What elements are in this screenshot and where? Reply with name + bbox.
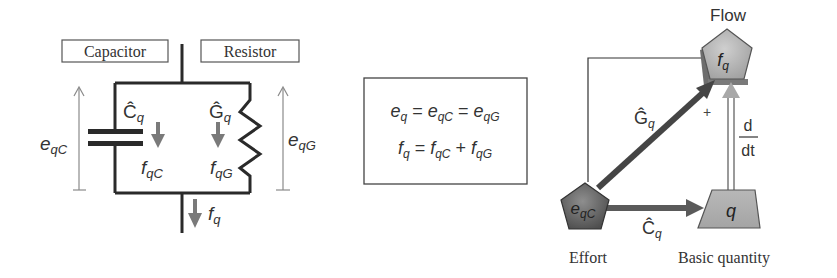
f-q-label: fq xyxy=(208,203,221,227)
e-qg-label: eqG xyxy=(288,129,316,153)
effort-node xyxy=(561,183,609,229)
plus-sign: + xyxy=(703,104,711,120)
f-qc-arrow-icon xyxy=(151,122,165,148)
derivative-label: d dt xyxy=(739,117,758,159)
g-hat-label: Ĝq xyxy=(209,101,232,125)
f-qc-label: fqC xyxy=(141,157,164,181)
capacitor-label-box: Capacitor xyxy=(62,40,168,62)
circuit-diagram: Capacitor Resistor xyxy=(40,40,316,233)
f-qg-arrow-icon xyxy=(211,122,225,148)
capacitor-symbol xyxy=(88,129,143,146)
basic-quantity-node-label: q xyxy=(726,201,736,221)
resistor-label: Resistor xyxy=(224,43,277,60)
basic-quantity-label: Basic quantity xyxy=(678,249,770,267)
diagram-canvas: Capacitor Resistor xyxy=(0,0,837,278)
svg-text:d: d xyxy=(744,117,753,134)
e-qc-label: eqC xyxy=(40,133,68,157)
tetrahedron-graph: fq Flow eqC Effort q Basic quantity Ĝq Ĉ… xyxy=(561,6,770,267)
g-hat-edge-label: Ĝq xyxy=(634,107,655,131)
e-qc-voltage-arrow xyxy=(73,87,86,190)
svg-text:dt: dt xyxy=(741,142,755,159)
derivative-arrow xyxy=(722,82,740,190)
circuit-wires xyxy=(115,44,260,233)
f-qg-label: fqG xyxy=(210,157,233,181)
equation-box: eq = eqC = eqG fq = fqC + fqG xyxy=(364,78,527,184)
c-hat-label: Ĉq xyxy=(123,101,145,125)
f-q-arrow-icon xyxy=(188,199,202,228)
flow-label: Flow xyxy=(710,6,747,25)
c-hat-arrow xyxy=(604,199,704,217)
c-hat-edge-label: Ĉq xyxy=(642,217,662,241)
resistor-label-box: Resistor xyxy=(201,40,299,62)
effort-label: Effort xyxy=(569,249,607,266)
capacitor-label: Capacitor xyxy=(84,43,147,61)
g-hat-arrow xyxy=(598,80,715,188)
